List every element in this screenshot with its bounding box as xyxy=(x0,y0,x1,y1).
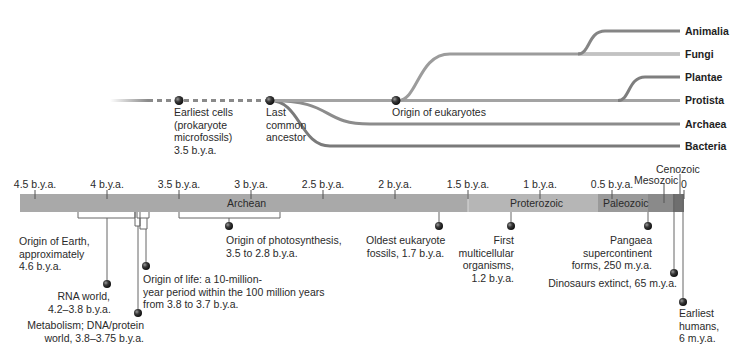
taxon-bacteria: Bacteria xyxy=(685,140,726,152)
label-earliest-cells: Earliest cells (prokaryote microfossils)… xyxy=(174,106,233,156)
tree-lead-in xyxy=(110,99,148,102)
tick-0-5: 0.5 b.y.a. xyxy=(591,178,633,190)
taxon-animalia: Animalia xyxy=(685,25,729,37)
marker-humans xyxy=(679,298,687,306)
era-mesozoic-band xyxy=(648,194,673,212)
marker-oldest-eukaryote xyxy=(435,222,443,230)
event-humans: Earliest humans, 6 m.y.a. xyxy=(679,307,719,345)
event-dinosaurs: Dinosaurs extinct, 65 m.y.a. xyxy=(540,277,677,290)
tick-4-5: 4.5 b.y.a. xyxy=(14,178,56,190)
marker-photosynthesis xyxy=(225,222,233,230)
branch-animalia xyxy=(578,31,680,54)
tick-3-5: 3.5 b.y.a. xyxy=(158,178,200,190)
tick-2-5: 2.5 b.y.a. xyxy=(302,178,344,190)
tick-0: 0 xyxy=(681,178,687,190)
tick-4: 4 b.y.a. xyxy=(90,178,124,190)
event-multicellular: First multicellular organisms, 1.2 b.y.a… xyxy=(452,234,514,284)
node-origin-eukaryotes xyxy=(392,96,401,105)
event-rna-world: RNA world, 4.2–3.8 b.y.a. xyxy=(48,290,110,315)
taxon-plantae: Plantae xyxy=(685,71,722,83)
marker-origin-life xyxy=(142,262,150,270)
era-mesozoic: Mesozoic xyxy=(634,174,678,186)
event-oldest-eukaryote: Oldest eukaryote fossils, 1.7 b.y.a. xyxy=(366,234,445,259)
event-origin-earth: Origin of Earth, approximately 4.6 b.y.a… xyxy=(19,235,90,273)
marker-pangaea xyxy=(644,222,652,230)
era-paleozoic: Paleozoic xyxy=(603,197,649,209)
era-proterozoic: Proterozoic xyxy=(510,197,563,209)
tick-1-5: 1.5 b.y.a. xyxy=(447,178,489,190)
marker-metabolism xyxy=(134,309,142,317)
taxon-fungi: Fungi xyxy=(685,48,714,60)
era-archean: Archean xyxy=(227,197,266,209)
era-cenozoic-band xyxy=(673,194,684,212)
label-last-common-ancestor: Last common ancestor xyxy=(266,106,306,144)
era-cenozoic: Cenozoic xyxy=(656,163,700,175)
label-origin-eukaryotes: Origin of eukaryotes xyxy=(392,106,486,119)
branch-plantae xyxy=(618,77,680,101)
node-last-common-ancestor xyxy=(266,96,275,105)
event-pangaea: Pangaea supercontinent forms, 250 m.y.a. xyxy=(565,234,652,272)
tick-1: 1 b.y.a. xyxy=(523,178,557,190)
event-photosynthesis: Origin of photosynthesis, 3.5 to 2.8 b.y… xyxy=(226,234,342,259)
taxon-archaea: Archaea xyxy=(685,118,726,130)
taxon-protista: Protista xyxy=(685,94,724,106)
node-earliest-cells xyxy=(175,96,184,105)
event-metabolism: Metabolism; DNA/protein world, 3.8–3.75 … xyxy=(20,319,144,344)
event-origin-life: Origin of life: a 10-million- year perio… xyxy=(143,273,325,311)
tick-3: 3 b.y.a. xyxy=(234,178,268,190)
marker-dinosaurs xyxy=(670,269,678,277)
marker-rna-world xyxy=(103,280,111,288)
marker-multicellular xyxy=(507,222,515,230)
tick-2: 2 b.y.a. xyxy=(378,178,412,190)
